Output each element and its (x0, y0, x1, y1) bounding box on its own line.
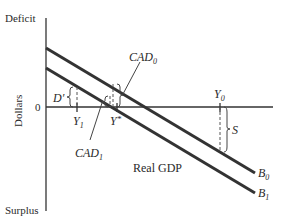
b0-label: B0 (258, 167, 269, 182)
deficit-label: Deficit (5, 13, 36, 24)
y1-label: Y1 (73, 115, 84, 130)
ystar-main: Y (110, 114, 117, 128)
d-prime-label: D′ (53, 92, 64, 104)
surplus-label: Surplus (5, 205, 39, 216)
s-label: S (232, 124, 238, 136)
cad0-main: CAD (129, 50, 153, 64)
b0-sub: 0 (265, 173, 269, 182)
cad0-label: CAD0 (129, 51, 157, 66)
cad1-main: CAD (75, 146, 99, 160)
leader-cad0 (123, 62, 140, 94)
leader-cad1 (90, 103, 102, 140)
y1-main: Y (73, 114, 80, 128)
ystar-label: Y* (110, 115, 121, 127)
zero-label: 0 (35, 102, 41, 113)
dollars-axis-label: Dollars (13, 95, 24, 127)
y0-sub: 0 (221, 94, 225, 103)
brace-s (224, 107, 230, 152)
cad1-sub: 1 (99, 153, 103, 162)
b1-label: B1 (258, 187, 269, 202)
b1-sub: 1 (265, 193, 269, 202)
cad1-label: CAD1 (75, 147, 103, 162)
x-axis-label: Real GDP (133, 162, 182, 174)
brace-d-prime (67, 87, 73, 107)
cad0-sub: 0 (153, 57, 157, 66)
y0-main: Y (214, 87, 221, 101)
diagram-canvas (0, 0, 281, 219)
ystar-sup: * (117, 114, 122, 124)
budget-deficit-diagram: Deficit Surplus Dollars 0 Real GDP D′ S … (0, 0, 281, 219)
brace-cad0 (117, 84, 123, 107)
y1-sub: 1 (80, 121, 84, 130)
y0-label: Y0 (214, 88, 225, 103)
